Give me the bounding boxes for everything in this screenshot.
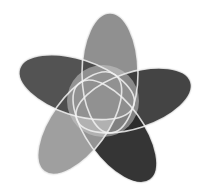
central-overlap-region	[67, 65, 139, 137]
venn-diagram	[0, 0, 205, 191]
venn-svg	[0, 0, 205, 191]
